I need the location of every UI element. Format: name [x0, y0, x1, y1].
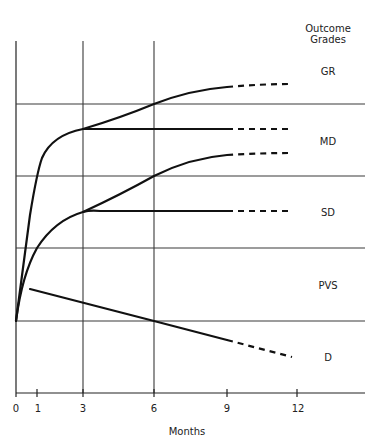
x-tick-label-9: 9 [224, 403, 230, 414]
legend-title-outcome: Outcome [305, 23, 351, 34]
grade-label-sd: SD [321, 207, 335, 218]
curve-plateau-sd [83, 211, 227, 212]
x-tick-label-12: 12 [292, 403, 305, 414]
grade-label-md: MD [320, 136, 336, 147]
x-tick-label-0: 0 [13, 403, 19, 414]
curve-recovery-to-gr-projection [227, 84, 292, 87]
x-tick-label-1: 1 [35, 403, 41, 414]
x-tick-label-3: 3 [80, 403, 86, 414]
curve-decline-to-d [30, 289, 227, 340]
x-tick-label-6: 6 [151, 403, 157, 414]
curve-recovery-to-gr [16, 87, 227, 321]
legend-title-grades: Grades [310, 34, 346, 45]
curve-decline-to-d-projection [227, 340, 292, 357]
curve-recovery-to-md-projection [227, 153, 292, 155]
grade-label-pvs: PVS [318, 280, 337, 291]
grade-label-d: D [324, 352, 332, 363]
curve-recovery-to-md [16, 155, 227, 321]
grade-label-gr: GR [321, 66, 336, 77]
x-axis-title: Months [169, 426, 206, 437]
